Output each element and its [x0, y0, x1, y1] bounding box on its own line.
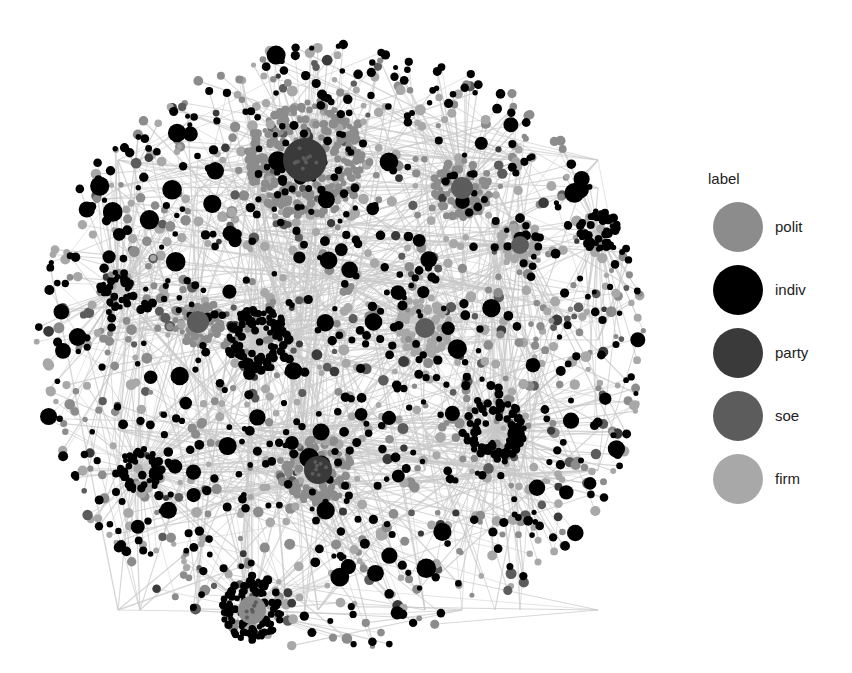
legend-item-indiv: indiv [708, 258, 848, 321]
legend-item-soe: soe [708, 384, 848, 447]
legend-title: label [708, 170, 848, 187]
legend-item-polit: polit [708, 195, 848, 258]
legend-label-firm: firm [775, 470, 800, 487]
network-graph [0, 0, 690, 673]
legend-label-indiv: indiv [775, 281, 806, 298]
legend-swatch-indiv [713, 265, 763, 315]
legend: label polit indiv party soe firm [708, 170, 848, 510]
legend-item-party: party [708, 321, 848, 384]
legend-swatch-firm [713, 454, 763, 504]
legend-label-polit: polit [775, 218, 803, 235]
legend-swatch-soe [713, 391, 763, 441]
legend-swatch-polit [713, 202, 763, 252]
legend-label-party: party [775, 344, 808, 361]
legend-item-firm: firm [708, 447, 848, 510]
legend-swatch-party [713, 328, 763, 378]
legend-label-soe: soe [775, 407, 799, 424]
